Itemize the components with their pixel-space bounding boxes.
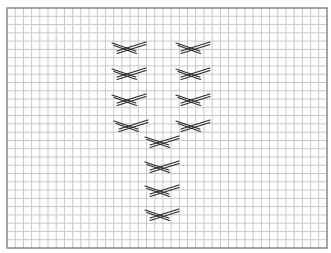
stitch-grid-svg [0,0,331,253]
stitch-chart [0,0,331,253]
